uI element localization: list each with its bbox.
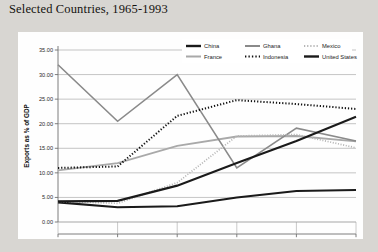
x-tick-label: 1983 — [231, 239, 243, 240]
x-tick-label: 1978 — [171, 239, 183, 240]
legend-label: United States — [322, 54, 357, 60]
y-tick-label: 20.00 — [39, 121, 53, 127]
legend-label: Mexico — [322, 43, 340, 49]
x-tick-label: 1988 — [290, 239, 302, 240]
series-line-ghana — [58, 65, 356, 168]
y-tick-label: 35.00 — [39, 47, 53, 53]
series-line-mexico — [58, 135, 356, 204]
x-axis-tick-labels: 1965*19701978198319881993 — [51, 239, 363, 240]
y-axis-label: Exports as % of GDP — [23, 103, 31, 167]
series-line-china — [58, 190, 356, 207]
chart-plot-area: 0.005.0010.0015.0020.0025.0030.0035.00 1… — [18, 32, 363, 239]
series-line-france — [58, 136, 356, 170]
y-axis-tick-labels: 0.005.0010.0015.0020.0025.0030.0035.00 — [39, 47, 53, 225]
y-tick-label: 15.00 — [39, 145, 53, 151]
legend-label: Indonesia — [263, 54, 289, 60]
chart-page: Selected Countries, 1965-1993 0.005.0010… — [0, 0, 378, 252]
data-series — [58, 65, 356, 208]
chart-card: 0.005.0010.0015.0020.0025.0030.0035.00 1… — [18, 32, 363, 239]
y-tick-label: 25.00 — [39, 96, 53, 102]
legend-label: France — [204, 54, 222, 60]
y-tick-label: 5.00 — [42, 194, 53, 200]
y-tick-label: 0.00 — [42, 219, 53, 225]
x-tick-label: 1965* — [51, 239, 66, 240]
x-tick-label: 1970 — [111, 239, 123, 240]
y-tick-label: 10.00 — [39, 170, 53, 176]
y-tick-label: 30.00 — [39, 72, 53, 78]
y-axis-title: Exports as % of GDP — [23, 103, 31, 167]
chart-legend[interactable]: ChinaGhanaMexicoFranceIndonesiaUnited St… — [182, 40, 357, 63]
page-title: Selected Countries, 1965-1993 — [9, 2, 168, 17]
legend-label: China — [204, 43, 220, 49]
x-tick-label: 1993 — [350, 239, 362, 240]
exports-gdp-line-chart: 0.005.0010.0015.0020.0025.0030.0035.00 1… — [18, 32, 363, 239]
series-line-united-states — [58, 117, 356, 202]
legend-label: Ghana — [263, 43, 281, 49]
